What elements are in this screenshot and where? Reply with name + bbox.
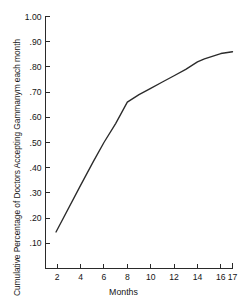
x-tick-label: 14 (193, 272, 203, 282)
y-tick-label: .70 (30, 87, 42, 97)
y-tick-label: .20 (30, 213, 42, 223)
x-tick-label: 6 (102, 272, 107, 282)
x-tick-label: 8 (125, 272, 130, 282)
x-tick-label: 17 (228, 272, 238, 282)
y-tick-label: 1.00 (25, 12, 42, 22)
x-tick-group: 24681012141617 (55, 264, 238, 282)
chart-plot-area: .10.20.30.40.50.60.70.80.901.00 24681012… (0, 0, 247, 305)
y-tick-label: .30 (30, 188, 42, 198)
x-tick-label: 16 (216, 272, 226, 282)
y-tick-label: .60 (30, 112, 42, 122)
chart-figure: Cumulative Percentage of Doctors Accepti… (0, 0, 247, 305)
y-tick-label: .80 (30, 62, 42, 72)
y-tick-label: .10 (30, 238, 42, 248)
y-tick-label: .50 (30, 138, 42, 148)
x-tick-label: 2 (55, 272, 60, 282)
x-tick-label: 12 (169, 272, 179, 282)
x-tick-label: 4 (78, 272, 83, 282)
x-axis-title: Months (0, 287, 247, 297)
y-tick-label: .90 (30, 37, 42, 47)
y-tick-group: .10.20.30.40.50.60.70.80.901.00 (25, 12, 50, 249)
axes-group (46, 16, 233, 269)
y-tick-label: .40 (30, 163, 42, 173)
data-series-line (56, 52, 232, 232)
x-tick-label: 10 (146, 272, 156, 282)
